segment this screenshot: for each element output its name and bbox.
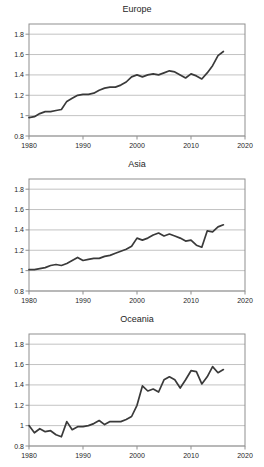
- line-plot-asia: 0.811.21.41.61.819801990200020102020: [0, 174, 264, 310]
- chart-oceania: Oceania 0.811.21.41.61.81980199020002010…: [0, 310, 264, 465]
- y-tick-label: 1.4: [14, 71, 24, 78]
- x-tick-label: 2000: [129, 452, 145, 459]
- y-tick-label: 0.8: [14, 133, 24, 140]
- x-tick-label: 1990: [75, 142, 91, 149]
- chart-europe: Europe 0.811.21.41.61.819801990200020102…: [0, 0, 264, 155]
- x-tick-label: 1990: [75, 297, 91, 304]
- y-tick-label: 1.2: [14, 402, 24, 409]
- x-tick-label: 2020: [237, 297, 253, 304]
- line-plot-oceania: 0.811.21.41.61.819801990200020102020: [0, 329, 264, 465]
- y-tick-label: 1.8: [14, 341, 24, 348]
- y-tick-label: 0.8: [14, 443, 24, 450]
- chart-title-oceania: Oceania: [29, 310, 245, 329]
- data-line: [29, 52, 223, 118]
- data-line: [29, 225, 223, 270]
- y-tick-label: 1: [20, 422, 24, 429]
- y-tick-label: 1: [20, 267, 24, 274]
- y-tick-label: 0.8: [14, 288, 24, 295]
- y-tick-label: 1.4: [14, 381, 24, 388]
- x-tick-label: 2010: [183, 297, 199, 304]
- x-tick-label: 2000: [129, 297, 145, 304]
- chart-title-europe: Europe: [29, 0, 245, 19]
- x-tick-label: 1980: [21, 142, 37, 149]
- x-tick-label: 2020: [237, 452, 253, 459]
- x-tick-label: 1980: [21, 452, 37, 459]
- plot-border: [29, 24, 245, 136]
- x-tick-label: 2010: [183, 452, 199, 459]
- chart-asia: Asia 0.811.21.41.61.81980199020002010202…: [0, 155, 264, 310]
- x-tick-label: 2020: [237, 142, 253, 149]
- plot-border: [29, 179, 245, 291]
- y-tick-label: 1.6: [14, 361, 24, 368]
- y-tick-label: 1.4: [14, 226, 24, 233]
- x-tick-label: 2010: [183, 142, 199, 149]
- line-plot-europe: 0.811.21.41.61.819801990200020102020: [0, 19, 264, 155]
- y-tick-label: 1.6: [14, 51, 24, 58]
- x-tick-label: 2000: [129, 142, 145, 149]
- charts-page: Europe 0.811.21.41.61.819801990200020102…: [0, 0, 264, 467]
- x-tick-label: 1990: [75, 452, 91, 459]
- y-tick-label: 1.2: [14, 92, 24, 99]
- x-tick-label: 1980: [21, 297, 37, 304]
- y-tick-label: 1: [20, 112, 24, 119]
- y-tick-label: 1.6: [14, 206, 24, 213]
- chart-title-asia: Asia: [29, 155, 245, 174]
- y-tick-label: 1.8: [14, 186, 24, 193]
- y-tick-label: 1.2: [14, 247, 24, 254]
- y-tick-label: 1.8: [14, 31, 24, 38]
- data-line: [29, 367, 223, 437]
- plot-border: [29, 334, 245, 446]
